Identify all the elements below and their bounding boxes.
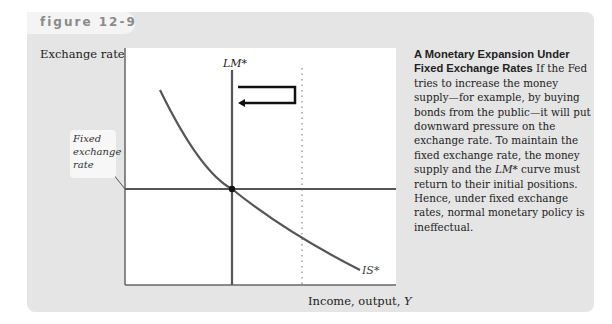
arrowhead-icon xyxy=(238,99,245,107)
fixed-rate-label-line: rate xyxy=(73,158,113,171)
is-curve xyxy=(160,90,360,270)
caption-lm-term: LM* xyxy=(495,163,518,175)
x-axis-label-text: Income, output, xyxy=(308,294,404,308)
fixed-rate-label-line: Fixed xyxy=(73,132,113,145)
caption-body: If the Fed tries to increase the money s… xyxy=(414,62,591,175)
fixed-rate-label-box: Fixed exchange rate xyxy=(70,130,116,178)
fixed-rate-label-line: exchange xyxy=(73,145,113,158)
x-axis-variable: Y xyxy=(404,294,412,308)
is-curve-label: IS* xyxy=(362,264,379,277)
equilibrium-point xyxy=(229,186,235,192)
return-arrow xyxy=(238,87,295,103)
x-axis-label: Income, output, Y xyxy=(308,294,412,308)
figure-caption: A Monetary Expansion Under Fixed Exchang… xyxy=(414,47,592,234)
lm-curve-label: LM* xyxy=(223,57,247,70)
